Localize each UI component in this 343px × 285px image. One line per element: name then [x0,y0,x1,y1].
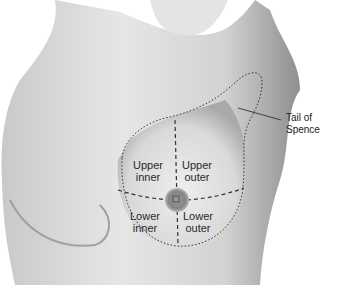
areola [165,188,189,212]
label-upper-outer: Upperouter [182,159,212,183]
label-upper-inner: Upperinner [133,159,163,183]
breast-quadrants-diagram: Upperinner Upperouter Lowerinner Lowerou… [0,0,343,285]
label-lower-inner: Lowerinner [130,210,160,234]
label-tail-of-spence: Tail ofSpence [286,112,320,136]
label-lower-outer: Lowerouter [183,210,213,234]
anatomy-illustration [0,0,343,285]
